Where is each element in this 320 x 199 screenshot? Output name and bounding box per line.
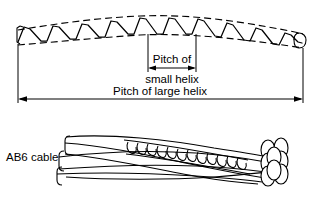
small-helix-label-line1: Pitch of <box>153 53 192 65</box>
ab6-cable-label: AB6 cable <box>6 151 58 163</box>
ab6-cable-drawing <box>57 136 288 186</box>
small-helix-arrow-left <box>148 65 156 70</box>
upper-helix-diagram <box>17 16 306 48</box>
cable-helix-figure: Pitch of small helix Pitch of large heli… <box>0 0 320 199</box>
small-helix-strand-wave <box>18 18 302 45</box>
large-helix-label: Pitch of large helix <box>113 85 207 97</box>
cable-helical-wound-strand <box>124 140 250 174</box>
small-helix-label-line2: small helix <box>145 73 199 85</box>
small-helix-dimension: Pitch of small helix <box>145 34 199 85</box>
large-helix-arrow-right <box>294 96 303 101</box>
large-helix-upper-envelope <box>18 16 303 34</box>
cable-right-cut-strand-ends <box>261 138 288 186</box>
large-helix-arrow-left <box>18 96 27 101</box>
small-helix-arrow-right <box>188 65 196 70</box>
large-helix-lower-envelope <box>18 35 303 48</box>
